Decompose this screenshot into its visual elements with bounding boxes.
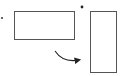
rotation-diagram [0,0,128,76]
rotation-arrow-icon [55,51,79,61]
landscape-rectangle [15,12,75,40]
portrait-origin-dot [81,6,84,9]
portrait-rectangle [91,12,117,73]
landscape-origin-dot [1,17,3,19]
